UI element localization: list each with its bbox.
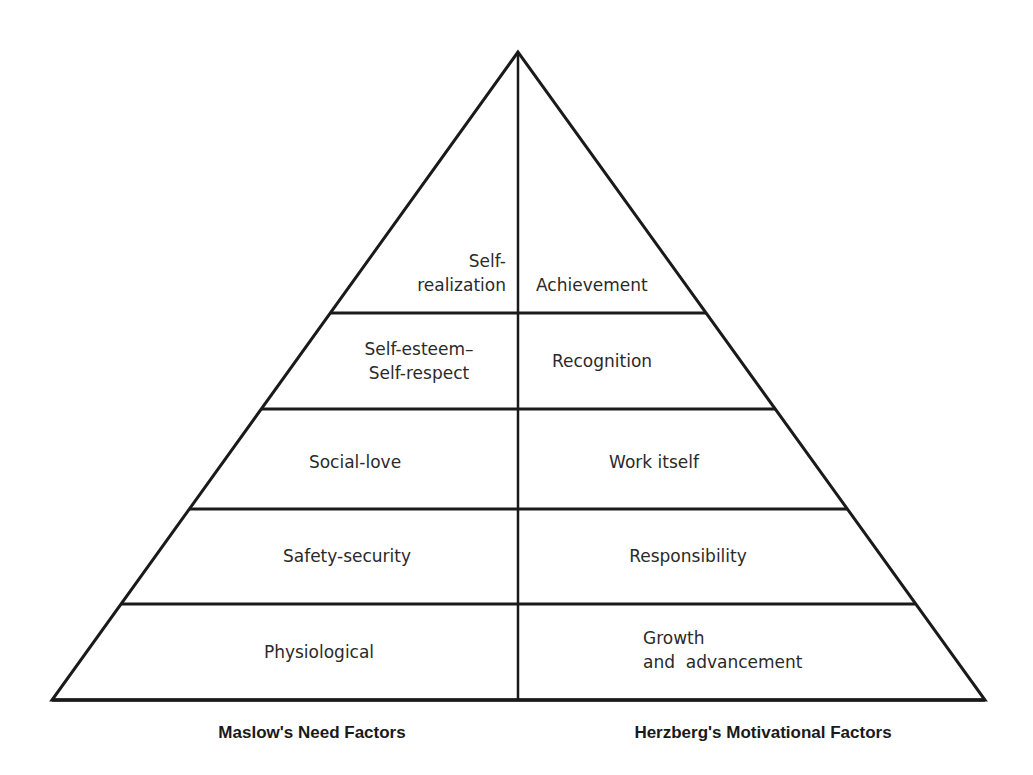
maslow-level-safety-security: Safety-security [283, 544, 411, 568]
label-line: realization [417, 273, 506, 297]
herzberg-level-responsibility: Responsibility [629, 544, 747, 568]
label-line: Recognition [552, 349, 652, 373]
maslow-caption: Maslow's Need Factors [218, 723, 405, 743]
maslow-level-self-esteem: Self-esteem– Self-respect [364, 337, 473, 385]
maslow-level-social-love: Social-love [309, 450, 401, 474]
label-line: Physiological [264, 640, 374, 664]
label-line: Work itself [609, 450, 699, 474]
maslow-level-self-realization: Self- realization [417, 249, 506, 297]
label-line: and advancement [643, 650, 803, 674]
maslow-herzberg-pyramid-diagram: Self- realization Achievement Self-estee… [0, 0, 1033, 775]
label-line: Self-respect [364, 361, 473, 385]
label-line: Self- [417, 249, 506, 273]
herzberg-level-work-itself: Work itself [609, 450, 699, 474]
herzberg-caption: Herzberg's Motivational Factors [634, 723, 891, 743]
herzberg-level-recognition: Recognition [552, 349, 652, 373]
label-line: Responsibility [629, 544, 747, 568]
herzberg-level-achievement: Achievement [536, 273, 648, 297]
maslow-level-physiological: Physiological [264, 640, 374, 664]
label-line: Safety-security [283, 544, 411, 568]
label-line: Social-love [309, 450, 401, 474]
label-line: Achievement [536, 273, 648, 297]
label-line: Self-esteem– [364, 337, 473, 361]
herzberg-level-growth-advancement: Growth and advancement [643, 626, 803, 674]
label-line: Growth [643, 626, 803, 650]
pyramid-outline [0, 0, 1033, 775]
